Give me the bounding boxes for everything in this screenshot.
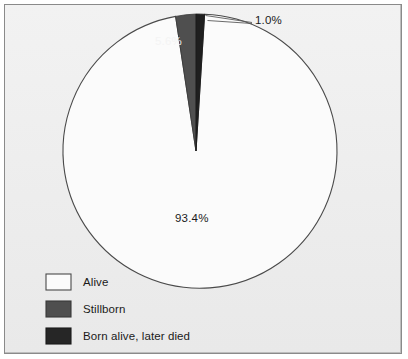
legend-item-stillborn[interactable]: Stillborn — [46, 301, 125, 317]
legend-item-born-alive-later-died[interactable]: Born alive, later died — [46, 328, 190, 344]
legend-label-born-alive-later-died: Born alive, later died — [83, 330, 190, 342]
legend-label-stillborn: Stillborn — [83, 303, 125, 315]
legend-item-alive[interactable]: Alive — [46, 274, 108, 290]
legend-swatch-alive — [46, 274, 71, 290]
pie-chart: 1.0% 5.6% 93.4% Alive Stillborn Born ali… — [0, 0, 408, 359]
legend-swatch-born-alive-later-died — [46, 328, 71, 344]
figure-container: 1.0% 5.6% 93.4% Alive Stillborn Born ali… — [0, 0, 408, 359]
label-alive-pct: 93.4% — [175, 212, 209, 224]
legend-label-alive: Alive — [83, 276, 108, 288]
label-stillborn-pct: 5.6% — [155, 35, 182, 47]
label-born-alive-later-died-pct: 1.0% — [255, 14, 282, 26]
legend-swatch-stillborn — [46, 301, 71, 317]
